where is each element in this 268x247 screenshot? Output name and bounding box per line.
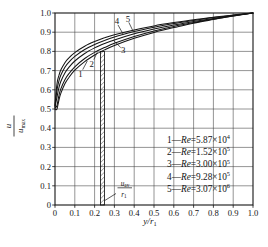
x-tick-label: 0.2 <box>89 208 100 218</box>
x-tick-label: 0.6 <box>168 208 179 218</box>
hatched-band-rect <box>101 51 105 205</box>
legend-entry-4: 4—Re=9.28×105 <box>167 170 230 182</box>
curve-label-2: 2 <box>90 59 94 69</box>
y-axis-label-denominator-sub: max <box>20 119 26 129</box>
legend-entry-2: 2—Re=1.52×105 <box>167 145 230 157</box>
band-label: uav r1 <box>105 180 132 201</box>
curve-label-leader <box>129 22 133 31</box>
y-tick-labels: 00.10.20.30.40.50.60.70.80.91.0 <box>40 8 51 210</box>
curve-label-3: 3 <box>121 45 126 55</box>
x-axis-label: y/r1 <box>142 216 156 227</box>
y-tick-label: 1.0 <box>40 8 51 18</box>
x-tick-label: 0.3 <box>109 208 120 218</box>
velocity-profile-figure: 00.10.20.30.40.50.60.70.80.91.0 00.10.20… <box>0 0 268 247</box>
x-tick-label: 0.8 <box>208 208 219 218</box>
curve-label-4: 4 <box>115 16 120 26</box>
x-tick-label: 0 <box>53 208 57 218</box>
x-axis-label-main: y/r <box>142 216 154 226</box>
y-axis-label: u umax <box>3 116 26 137</box>
x-axis-label-sub: 1 <box>154 220 157 227</box>
y-tick-label: 0.5 <box>40 104 51 114</box>
band-label-numerator-sub: av <box>124 182 129 188</box>
svg-text:uav: uav <box>121 180 130 188</box>
legend-entry-5: 5—Re=3.07×106 <box>167 182 230 194</box>
legend-entry-3: 3—Re=3.00×105 <box>167 158 230 170</box>
y-tick-label: 0.4 <box>40 123 51 133</box>
svg-text:r1: r1 <box>121 191 127 199</box>
reynolds-legend: 1—Re=5.87×1042—Re=1.52×1053—Re=3.00×1054… <box>167 133 231 194</box>
y-tick-label: 0.9 <box>40 27 51 37</box>
y-tick-label: 0.7 <box>40 66 51 76</box>
legend-entry-1: 1—Re=5.87×104 <box>167 133 231 145</box>
curve-label-1: 1 <box>78 69 82 79</box>
y-tick-label: 0.8 <box>40 46 51 56</box>
y-tick-label: 0.2 <box>40 162 51 172</box>
curve-label-5: 5 <box>126 14 131 24</box>
x-tick-label: 1.0 <box>248 208 259 218</box>
chart-svg: 00.10.20.30.40.50.60.70.80.91.0 00.10.20… <box>0 0 268 247</box>
svg-text:umax: umax <box>15 119 26 133</box>
y-tick-label: 0.1 <box>40 181 51 191</box>
x-tick-label: 0.4 <box>129 208 140 218</box>
y-tick-label: 0.6 <box>40 85 51 95</box>
x-tick-label: 0.7 <box>188 208 199 218</box>
x-tick-label: 0.1 <box>69 208 80 218</box>
y-axis-label-numerator: u <box>3 123 13 128</box>
y-tick-label: 0.3 <box>40 142 51 152</box>
curve-number-labels: 12345 <box>78 14 133 79</box>
x-tick-label: 0.9 <box>228 208 239 218</box>
x-tick-labels: 00.10.20.30.40.50.60.70.80.91.0 <box>53 208 259 218</box>
band-label-denominator-sub: 1 <box>124 193 127 199</box>
average-velocity-band <box>101 51 105 205</box>
y-tick-label: 0 <box>47 200 51 210</box>
